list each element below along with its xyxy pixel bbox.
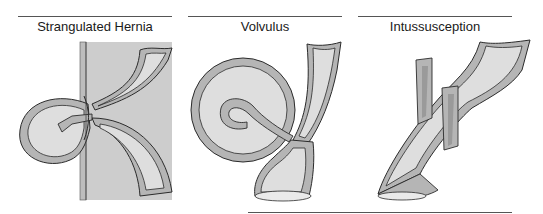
panel-volvulus: Volvulus xyxy=(181,0,362,214)
panel-strangulated-hernia: Strangulated Hernia xyxy=(0,0,181,214)
bottom-rule xyxy=(248,212,512,213)
strangulated-hernia-illustration xyxy=(0,0,181,214)
intussusception-illustration xyxy=(362,0,543,214)
panel-intussusception: Intussusception xyxy=(362,0,543,214)
volvulus-illustration xyxy=(181,0,362,214)
